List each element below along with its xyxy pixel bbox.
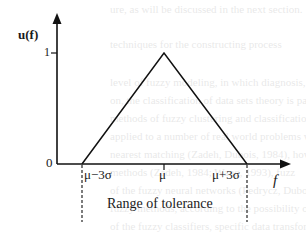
y-axis-label: u(f)	[18, 27, 38, 43]
range-of-tolerance-label: Range of tolerance	[107, 196, 213, 212]
origin-label: 0	[46, 155, 53, 171]
triangle-membership-curve	[82, 53, 247, 164]
x-tick-mu-minus-3sigma: μ−3σ	[84, 167, 112, 183]
x-axis-arrow-icon	[280, 160, 291, 169]
y-axis-arrow-icon	[53, 13, 62, 24]
x-tick-mu-plus-3sigma: μ+3σ	[212, 167, 240, 183]
x-tick-mu: μ	[159, 167, 166, 183]
y-tick-one-label: 1	[44, 45, 50, 60]
x-axis-label: f	[273, 172, 277, 189]
